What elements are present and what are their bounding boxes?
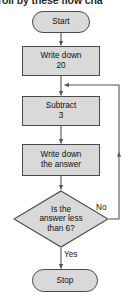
branch-label-no: No — [96, 203, 106, 212]
node-decision-answer-less-than-6[interactable]: Is the answer less than 6? — [13, 190, 109, 248]
node-stop[interactable]: Stop — [32, 269, 98, 292]
node-start[interactable]: Start — [32, 11, 90, 33]
node-write-down-the-answer[interactable]: Write down the answer — [22, 144, 100, 176]
node-write-down-20[interactable]: Write down 20 — [22, 46, 100, 76]
node-subtract-3-label: Subtract 3 — [46, 101, 77, 120]
node-start-label: Start — [52, 17, 69, 27]
loopback-up-arrow-icon — [117, 152, 121, 157]
node-stop-label: Stop — [57, 276, 74, 286]
node-write-down-the-answer-label: Write down the answer — [41, 150, 82, 169]
node-decision-label: Is the answer less than 6? — [13, 190, 109, 248]
flowchart-canvas: roll by these flow cha Start Write down … — [0, 0, 130, 300]
node-subtract-3[interactable]: Subtract 3 — [22, 96, 100, 126]
branch-label-yes: Yes — [64, 250, 77, 259]
node-write-down-20-label: Write down 20 — [41, 51, 82, 70]
